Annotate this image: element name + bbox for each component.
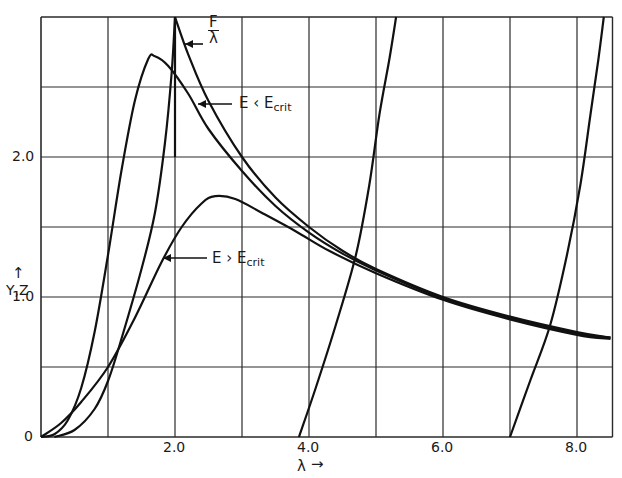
x-tick-label: 2.0 — [163, 439, 185, 455]
x-tick-label: 8.0 — [565, 439, 587, 455]
x-axis-arrow: → — [311, 455, 324, 473]
y-axis-arrow: ↑ — [12, 264, 25, 282]
x-tick-label: 6.0 — [431, 439, 453, 455]
x-tick-label: 4.0 — [297, 439, 319, 455]
e-less-text: E ‹ E — [239, 94, 274, 112]
crit-subscript: crit — [274, 101, 292, 114]
crit-subscript: crit — [247, 256, 265, 269]
label-e-more-ecrit: E › Ecrit — [212, 249, 264, 269]
x-axis-label: λ — [297, 457, 306, 475]
y-axis-label: Y,Z — [6, 282, 29, 298]
e-more-text: E › E — [212, 249, 247, 267]
f-denominator: λ — [208, 31, 219, 46]
y-tick-label: 2.0 — [12, 148, 34, 164]
y-tick-label: 0 — [24, 428, 33, 444]
grid-lines — [41, 17, 613, 437]
curve-e-e-crit — [41, 196, 611, 437]
curve-f- — [175, 17, 611, 338]
plot-area — [0, 0, 622, 478]
curve-e-e-crit — [41, 54, 611, 437]
label-e-less-ecrit: E ‹ Ecrit — [239, 94, 291, 114]
label-f-over-lambda: F λ — [208, 15, 219, 46]
